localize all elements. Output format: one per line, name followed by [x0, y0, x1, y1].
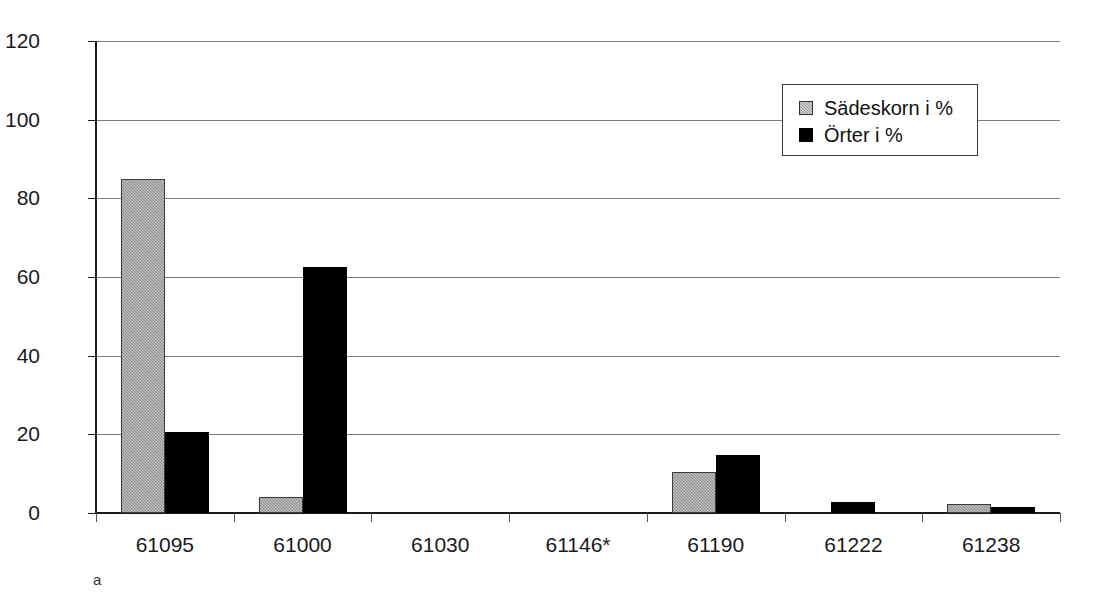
- x-tick-mark: [785, 513, 786, 522]
- bar-group: [371, 41, 509, 513]
- panel-label: a: [93, 572, 101, 587]
- x-tick-mark: [509, 513, 510, 522]
- x-tick-mark: [96, 513, 97, 522]
- x-tick-mark: [234, 513, 235, 522]
- bar-group-bars: [96, 41, 234, 513]
- x-tick-label: 61222: [785, 533, 923, 557]
- x-tick-mark: [371, 513, 372, 522]
- bar-grain: [121, 179, 165, 513]
- y-tick-mark: [88, 434, 96, 435]
- y-tick-mark: [88, 120, 96, 121]
- x-tick-label: 61146*: [509, 533, 647, 557]
- y-tick-label: 40: [17, 345, 40, 366]
- legend-label-grain: Sädeskorn i %: [824, 98, 953, 118]
- bar-grain: [947, 504, 991, 513]
- bar-group-bars: [647, 41, 785, 513]
- bar-group: [96, 41, 234, 513]
- legend-item-herb: Örter i %: [799, 121, 977, 148]
- y-tick-label: 120: [5, 30, 40, 51]
- bar-group-bars: [371, 41, 509, 513]
- legend-label-herb: Örter i %: [824, 125, 903, 145]
- bar-group: [647, 41, 785, 513]
- bar-herb: [991, 507, 1035, 513]
- y-tick-mark: [88, 41, 96, 42]
- y-tick-label: 100: [5, 109, 40, 130]
- y-tick-label: 80: [17, 187, 40, 208]
- bar-herb: [303, 267, 347, 513]
- bar-herb: [165, 432, 209, 513]
- bar-group-bars: [234, 41, 372, 513]
- y-tick-label: 60: [17, 266, 40, 287]
- bar-chart-figure: 120100806040200 61095610006103061146*611…: [0, 0, 1114, 616]
- y-tick-mark: [88, 277, 96, 278]
- x-tick-label: 61095: [96, 533, 234, 557]
- bar-grain: [259, 497, 303, 513]
- y-tick-label: 0: [28, 502, 40, 523]
- x-tick-mark: [647, 513, 648, 522]
- y-tick-mark: [88, 513, 96, 514]
- black-swatch: [799, 128, 813, 142]
- y-tick-mark: [88, 356, 96, 357]
- x-tick-label: 61190: [647, 533, 785, 557]
- x-tick-label: 61238: [922, 533, 1060, 557]
- gray-hatched-swatch: [799, 101, 813, 115]
- x-tick-label: 61030: [371, 533, 509, 557]
- bar-group-bars: [509, 41, 647, 513]
- legend-item-grain: Sädeskorn i %: [799, 94, 977, 121]
- chart-legend: Sädeskorn i % Örter i %: [782, 84, 978, 156]
- x-tick-label: 61000: [234, 533, 372, 557]
- bar-herb: [716, 455, 760, 513]
- bar-group: [509, 41, 647, 513]
- y-tick-label: 20: [17, 423, 40, 444]
- x-tick-mark: [922, 513, 923, 522]
- y-tick-mark: [88, 198, 96, 199]
- bar-herb: [831, 502, 875, 513]
- x-tick-mark: [1060, 513, 1061, 522]
- bar-group: [234, 41, 372, 513]
- bar-grain: [672, 472, 716, 513]
